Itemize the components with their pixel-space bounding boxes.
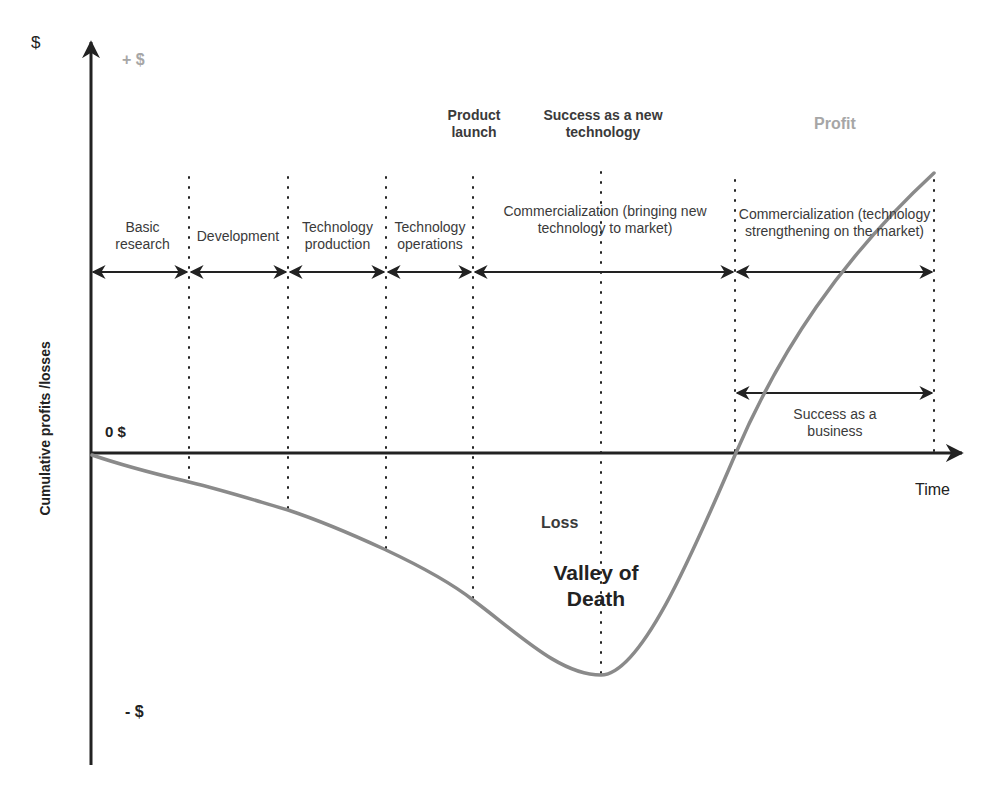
y-axis-title: Cumulative profits /losses [37,328,54,528]
y-axis-plus-label: + $ [122,50,145,69]
valley-of-death-label: Valley of Death [536,560,656,613]
y-axis-minus-label: - $ [125,702,144,721]
phase-basic-research: Basic research [100,219,185,253]
phase-commercialization-strengthening: Commercialization (technology strengthen… [737,206,932,240]
y-axis-top-label: $ [31,33,40,53]
phase-arrows [93,272,932,393]
profit-label: Profit [814,114,856,133]
milestone-tech-success: Success as a new technology [538,107,668,141]
success-as-business-label: Success as a business [780,406,890,440]
phase-technology-production: Technology production [290,219,385,253]
y-axis-zero-label: 0 $ [105,423,126,441]
loss-label: Loss [541,513,578,532]
phase-development: Development [186,228,290,245]
phase-technology-operations: Technology operations [385,219,475,253]
phase-commercialization-bringing: Commercialization (bringing new technolo… [500,203,710,237]
milestone-product-launch: Product launch [438,107,510,141]
x-axis-title: Time [915,480,950,499]
